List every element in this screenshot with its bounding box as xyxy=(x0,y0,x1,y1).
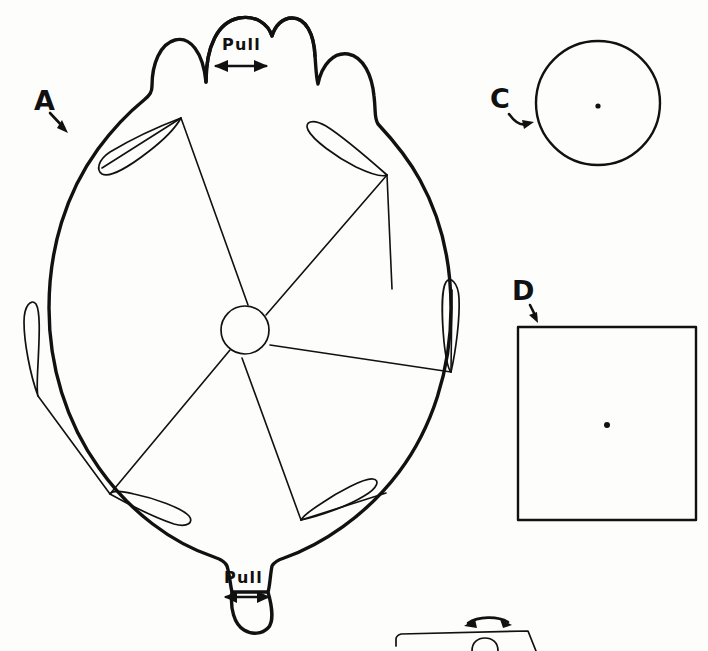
blade-edge-3 xyxy=(451,290,452,372)
label-d-text: D xyxy=(512,275,535,306)
pinwheel-pattern-figure: Pull Pull xyxy=(0,0,708,651)
wheel-slot-upper-right xyxy=(307,122,387,176)
label-d-arrow xyxy=(529,305,538,323)
blade-edge-2 xyxy=(387,175,392,289)
part-c-circle: C xyxy=(490,41,660,165)
part-d-square: D xyxy=(512,275,696,520)
partial-rect-outline xyxy=(396,631,536,651)
partial-arc-notch xyxy=(472,638,498,651)
top-pull-label: Pull xyxy=(222,35,261,54)
blade-cut-1 xyxy=(181,118,248,305)
blade-cut-3 xyxy=(270,345,451,372)
top-pull-arrow xyxy=(214,60,268,72)
top-pull-tab: Pull xyxy=(206,17,315,82)
blade-edge-1 xyxy=(102,118,181,168)
square-d-center-dot xyxy=(604,422,610,428)
partial-bottom-shape xyxy=(396,618,536,651)
blade-edge-4 xyxy=(38,396,110,494)
wheel-blade-cuts xyxy=(110,118,451,520)
wheel-slot-left xyxy=(24,302,39,396)
label-c-group: C xyxy=(490,83,534,129)
circle-c-outline xyxy=(536,41,660,165)
blade-cut-5 xyxy=(242,358,301,520)
label-a-group: A xyxy=(34,85,68,133)
label-d-group: D xyxy=(512,275,538,323)
wheel-outline xyxy=(49,17,451,592)
circle-c-center-dot xyxy=(595,103,600,108)
label-a-text: A xyxy=(34,85,55,116)
label-c-arrow xyxy=(509,114,534,129)
bottom-pull-label: Pull xyxy=(224,568,263,587)
label-a-arrow xyxy=(50,113,68,133)
diagram-canvas: Pull Pull xyxy=(0,0,708,651)
bottom-pull-tab: Pull xyxy=(224,568,272,633)
wheel-hub xyxy=(221,306,269,354)
wheel-blade-edges xyxy=(38,118,452,520)
blade-cut-4 xyxy=(110,350,230,494)
bottom-curved-arrow xyxy=(464,618,512,628)
part-a-wheel: Pull Pull xyxy=(24,17,459,633)
wheel-slots xyxy=(24,118,459,525)
label-c-text: C xyxy=(490,83,510,114)
blade-cut-2 xyxy=(266,175,387,315)
